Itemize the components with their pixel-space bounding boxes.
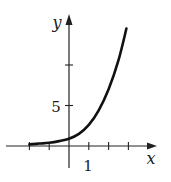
curve-line: [29, 29, 126, 145]
y-axis-arrow-icon: [66, 14, 73, 25]
y-tick-label: 5: [51, 98, 61, 116]
y-axis-label: y: [51, 13, 62, 32]
x-tick-label: 1: [83, 157, 93, 175]
x-axis-label: x: [146, 149, 155, 168]
chart: 1 5 x y: [0, 0, 171, 182]
